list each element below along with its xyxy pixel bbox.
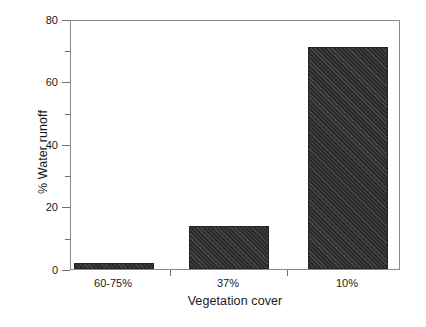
y-tick-mark-60 (62, 82, 70, 83)
x-axis-title: Vegetation cover (70, 294, 400, 308)
bar-37pct[interactable] (189, 226, 269, 269)
y-tick-label-0: 0 (16, 265, 58, 276)
y-tick-mark-40 (62, 145, 70, 146)
x-tick-label-10pct: 10% (292, 277, 402, 290)
bar-10pct[interactable] (308, 47, 388, 269)
x-tick-label-60-75pct: 60-75% (58, 277, 168, 290)
y-tick-mark-20 (62, 207, 70, 208)
y-tick-label-60: 60 (16, 77, 58, 88)
bar-60-75pct[interactable] (74, 263, 154, 269)
y-tick-label-80: 80 (16, 15, 58, 26)
y-tick-mark-0 (62, 270, 70, 271)
x-tick-mark-2 (287, 270, 288, 276)
y-tick-label-40: 40 (16, 140, 58, 151)
x-tick-mark-1 (170, 270, 171, 276)
y-tick-mark-80 (62, 20, 70, 21)
plot-area (70, 20, 400, 270)
x-tick-label-37pct: 37% (173, 277, 283, 290)
bar-chart-figure: % Water runoff 80 60 40 20 0 60-75% 37% … (0, 0, 426, 327)
y-tick-label-20: 20 (16, 202, 58, 213)
